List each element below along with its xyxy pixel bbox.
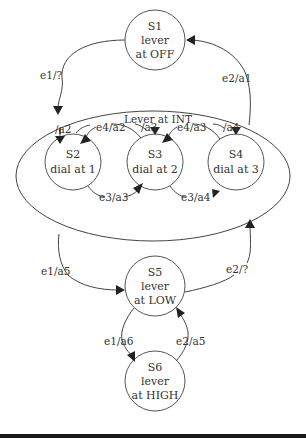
svg-text:e4/a3: e4/a3 <box>177 121 206 133</box>
svg-text:e1/a6: e1/a6 <box>104 335 134 347</box>
svg-text:at OFF: at OFF <box>136 48 175 61</box>
state-diagram: Lever at INT S1 lever at OFF S2 dial at … <box>0 0 306 442</box>
svg-text:/a4: /a4 <box>223 121 240 133</box>
entry-transition-s4: /a4 <box>213 121 241 135</box>
arrowhead-icon <box>186 35 195 45</box>
transition-s3-to-s4: e3/a4 <box>170 186 220 203</box>
transition-s1-to-int: e1/? <box>40 40 125 115</box>
svg-text:lever: lever <box>141 280 170 293</box>
transition-int-to-s5: e1/a5 <box>41 234 125 295</box>
svg-text:S2: S2 <box>66 148 81 161</box>
transition-s5-to-s6: e1/a6 <box>104 308 135 362</box>
arrowhead-icon <box>127 351 135 362</box>
transition-s5-to-int: e2/? <box>185 219 255 292</box>
svg-text:e3/a3: e3/a3 <box>99 191 128 203</box>
arrowhead-icon <box>212 189 220 198</box>
svg-text:at LOW: at LOW <box>134 294 177 307</box>
svg-text:lever: lever <box>141 34 170 47</box>
svg-text:S6: S6 <box>148 361 163 374</box>
svg-text:/a3: /a3 <box>141 121 157 133</box>
svg-text:e2/a5: e2/a5 <box>176 335 205 347</box>
state-s1: S1 lever at OFF <box>125 10 185 70</box>
svg-text:e2/?: e2/? <box>226 263 248 275</box>
svg-text:S4: S4 <box>229 148 244 161</box>
svg-text:e1/?: e1/? <box>40 69 62 81</box>
svg-text:lever: lever <box>141 375 170 388</box>
svg-text:S1: S1 <box>148 20 163 33</box>
bottom-rule <box>0 434 306 438</box>
transition-int-to-s1: e2/a1 <box>186 35 251 125</box>
svg-text:e4/a2: e4/a2 <box>96 121 125 133</box>
svg-text:e1/a5: e1/a5 <box>41 265 70 277</box>
svg-text:e3/a4: e3/a4 <box>181 191 211 203</box>
svg-text:dial at 1: dial at 1 <box>50 163 96 176</box>
svg-text:/a2: /a2 <box>55 123 71 135</box>
state-s3: S3 dial at 2 <box>127 134 183 190</box>
transition-s2-to-s3: e3/a3 <box>88 183 143 203</box>
state-s4: S4 dial at 3 <box>208 134 264 190</box>
svg-text:at HIGH: at HIGH <box>132 389 179 402</box>
svg-text:dial at 2: dial at 2 <box>132 163 178 176</box>
svg-text:S3: S3 <box>148 148 163 161</box>
svg-text:dial at 3: dial at 3 <box>213 163 259 176</box>
arrowhead-icon <box>176 307 185 318</box>
transition-s6-to-s5: e2/a5 <box>176 307 205 361</box>
arrowhead-icon <box>53 106 63 115</box>
state-s2: S2 dial at 1 <box>45 134 101 190</box>
svg-text:e2/a1: e2/a1 <box>222 72 251 84</box>
arrowhead-icon <box>116 285 125 295</box>
svg-text:S5: S5 <box>148 266 163 279</box>
